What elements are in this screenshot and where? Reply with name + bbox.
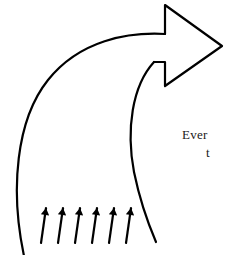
inflow-arrow bbox=[41, 208, 49, 243]
inflow-arrow bbox=[58, 208, 66, 243]
arrowhead-outline bbox=[154, 5, 222, 86]
inflow-arrow bbox=[92, 208, 100, 243]
annotation-text-block: Ever t bbox=[182, 126, 225, 161]
annotation-line-2: t bbox=[182, 144, 225, 162]
inflow-arrow bbox=[75, 208, 83, 243]
inflow-arrow bbox=[109, 208, 117, 243]
inflow-arrow bbox=[126, 208, 134, 243]
diagram-canvas: Ever t bbox=[0, 0, 225, 255]
annotation-line-1: Ever bbox=[182, 126, 225, 144]
arrow-outer-curve bbox=[17, 34, 165, 255]
arrow-inner-curve bbox=[131, 62, 156, 242]
inflow-arrow-group bbox=[41, 208, 134, 243]
